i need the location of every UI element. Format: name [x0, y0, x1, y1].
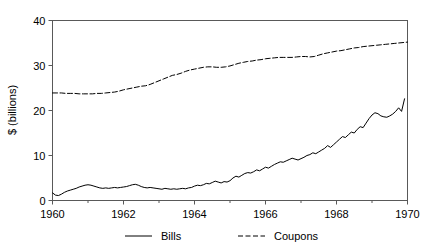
- y-axis-tick-label: 0: [39, 195, 45, 207]
- y-axis-title: $ (billions): [6, 85, 18, 135]
- x-axis-tick-label: 1970: [395, 208, 419, 220]
- x-axis: 196019621964196619681970: [40, 201, 419, 220]
- line-chart: 010203040 196019621964196619681970 $ (bi…: [0, 0, 427, 252]
- y-axis-tick-label: 30: [33, 60, 45, 72]
- legend-label-bills: Bills: [161, 230, 182, 242]
- y-axis: 010203040: [33, 15, 52, 207]
- y-axis-tick-label: 20: [33, 105, 45, 117]
- chart-figure: 010203040 196019621964196619681970 $ (bi…: [0, 0, 427, 252]
- x-axis-tick-label: 1966: [253, 208, 277, 220]
- legend-label-coupons: Coupons: [274, 230, 319, 242]
- x-axis-tick-label: 1964: [182, 208, 206, 220]
- y-axis-tick-label: 40: [33, 15, 45, 27]
- y-axis-tick-label: 10: [33, 150, 45, 162]
- x-axis-tick-label: 1962: [111, 208, 135, 220]
- x-axis-tick-label: 1960: [40, 208, 64, 220]
- x-axis-tick-label: 1968: [324, 208, 348, 220]
- chart-legend: BillsCoupons: [125, 230, 319, 242]
